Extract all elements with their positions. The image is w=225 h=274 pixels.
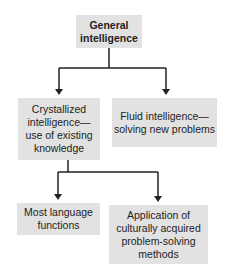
node-label: Most language functions: [19, 206, 98, 232]
node-crystallized-intelligence: Crystallized intelligence—use of existin…: [18, 98, 100, 160]
node-label: Crystallized intelligence—use of existin…: [20, 103, 98, 155]
arrow-crystallized: [55, 89, 63, 95]
node-label: General intelligence: [78, 19, 140, 45]
arrow-application: [154, 196, 162, 202]
node-fluid-intelligence: Fluid intelligence—solving new problems: [112, 98, 217, 147]
node-label: Fluid intelligence—solving new problems: [114, 110, 215, 136]
node-most-language-functions: Most language functions: [17, 203, 100, 235]
arrow-fluid: [162, 89, 170, 95]
arrow-language: [54, 194, 62, 200]
node-general-intelligence: General intelligence: [76, 15, 142, 48]
node-label: Application of culturally acquired probl…: [111, 209, 206, 261]
node-application-problem-solving: Application of culturally acquired probl…: [109, 205, 208, 264]
